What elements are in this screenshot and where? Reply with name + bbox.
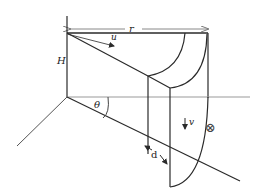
out-of-page-icon: ⊗: [205, 121, 216, 134]
diagram: r u H θ v d ⊗: [0, 0, 258, 193]
d-arrow-right: [160, 155, 167, 164]
label-d: d: [151, 150, 157, 160]
inner-velocity-profile: [148, 33, 185, 76]
label-theta: θ: [94, 100, 100, 110]
label-r: r: [129, 24, 134, 34]
bottom-diagonal: [67, 97, 240, 181]
left-lower-line: [17, 97, 67, 146]
label-u: u: [111, 33, 117, 42]
top-diagonal: [67, 33, 170, 88]
label-H: H: [57, 56, 66, 66]
lower-velocity-profile: [170, 97, 208, 187]
label-v: v: [189, 118, 194, 127]
u-arrow: [67, 34, 114, 46]
